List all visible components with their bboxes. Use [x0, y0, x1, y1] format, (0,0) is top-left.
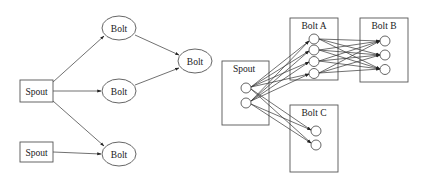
task-circle [309, 57, 319, 67]
bolt-c-tasks [311, 126, 321, 150]
edge-spout2-bolt-bot [53, 152, 101, 154]
task-circle [309, 69, 319, 79]
bolt-b-component-label: Bolt B [371, 21, 396, 31]
edges-spout-to-bolt-a [251, 41, 309, 101]
task-circle [309, 45, 319, 55]
task-circle [241, 98, 251, 108]
task-circle [380, 65, 390, 75]
bolt-label: Bolt [187, 57, 204, 67]
spout-node: Spout [20, 80, 53, 102]
edge-spout1-bolt-bot [53, 101, 104, 146]
bolt-b-tasks [380, 36, 390, 75]
edge-bolt-top-bolt-right [135, 35, 179, 55]
left-topology: Spout Spout Bolt Bolt Bolt Bolt [20, 16, 212, 166]
bolt-label: Bolt [111, 87, 128, 97]
edges-bolt-a-to-bolt-b [319, 39, 380, 73]
bolt-node: Bolt [178, 49, 212, 73]
spout-label: Spout [25, 87, 48, 97]
spout-tasks [241, 83, 251, 108]
bolt-a-component-label: Bolt A [301, 21, 326, 31]
spout-label: Spout [25, 148, 48, 158]
bolt-label: Bolt [111, 150, 128, 160]
bolt-node: Bolt [102, 16, 136, 40]
task-circle [309, 34, 319, 44]
spout-node: Spout [20, 142, 53, 162]
edge-bolt-mid-bolt-right [135, 68, 179, 85]
task-circle [311, 140, 321, 150]
bolt-label: Bolt [111, 24, 128, 34]
right-topology: Spout Bolt A Bolt B Bolt C [222, 18, 408, 172]
task-circle [380, 36, 390, 46]
bolt-node: Bolt [102, 142, 136, 166]
task-circle [241, 83, 251, 93]
bolt-a-tasks [309, 34, 319, 79]
task-circle [380, 50, 390, 60]
spout-component-label: Spout [233, 64, 256, 74]
task-circle [311, 126, 321, 136]
bolt-node: Bolt [102, 79, 136, 103]
edge-spout1-bolt-top [53, 36, 104, 82]
topology-diagram: Spout Spout Bolt Bolt Bolt Bolt Spout Bo… [0, 0, 421, 179]
bolt-c-component-label: Bolt C [301, 108, 326, 118]
